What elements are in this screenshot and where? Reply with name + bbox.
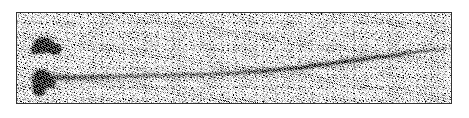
particle-track (17, 13, 451, 103)
photographic-plate (16, 12, 452, 104)
figure-root (0, 0, 469, 118)
